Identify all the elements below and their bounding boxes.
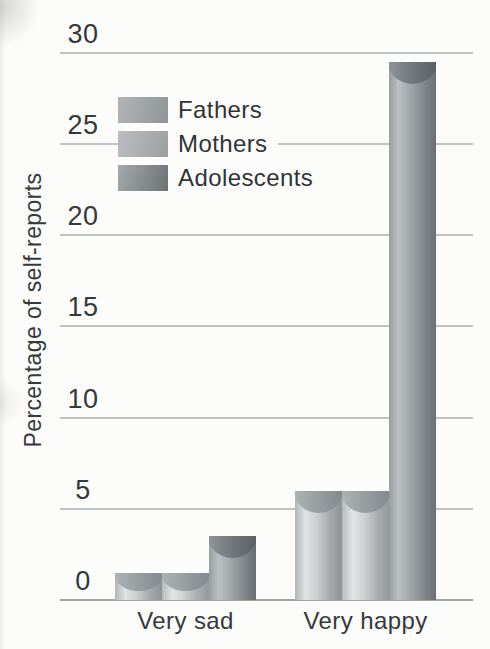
bar-very-sad-mothers [162, 573, 209, 600]
y-tick-15: 15 [60, 294, 106, 321]
y-tick-10: 10 [60, 386, 106, 413]
y-tick-5: 5 [60, 477, 106, 504]
bar-top-ellipse [115, 573, 162, 591]
bar-top-ellipse [162, 573, 209, 591]
bar-top-ellipse [295, 491, 342, 513]
legend-label: Mothers [178, 130, 268, 158]
legend-swatch-adolescents [118, 165, 168, 191]
bar-very-happy-adolescents [389, 62, 436, 600]
x-label-very-sad: Very sad [86, 607, 286, 635]
gridline-30 [60, 52, 473, 54]
bar-very-happy-mothers [342, 491, 389, 600]
legend-item-fathers: Fathers [118, 97, 272, 123]
bar-very-sad-adolescents [209, 536, 256, 600]
bar-chart-figure: Percentage of self-reports 051015202530V… [0, 0, 490, 649]
y-tick-20: 20 [60, 203, 106, 230]
bar-very-happy-fathers [295, 491, 342, 600]
legend-item-adolescents: Adolescents [118, 165, 323, 191]
bar-top-ellipse [342, 491, 389, 513]
legend-item-mothers: Mothers [118, 131, 278, 157]
legend-swatch-fathers [118, 97, 168, 123]
y-tick-30: 30 [60, 21, 106, 48]
y-axis-title: Percentage of self-reports [20, 160, 50, 460]
legend-swatch-mothers [118, 131, 168, 157]
legend: FathersMothersAdolescents [118, 97, 323, 199]
y-tick-25: 25 [60, 112, 106, 139]
legend-label: Adolescents [178, 164, 313, 192]
legend-label: Fathers [178, 96, 262, 124]
x-label-very-happy: Very happy [266, 607, 466, 635]
bar-top-ellipse [209, 536, 256, 558]
bar-top-ellipse [389, 62, 436, 84]
y-tick-0: 0 [60, 568, 106, 595]
bar-very-sad-fathers [115, 573, 162, 600]
